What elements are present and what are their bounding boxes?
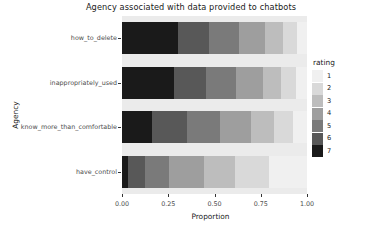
x-axis-tick-mark <box>168 194 169 197</box>
x-axis-tick-label: 0.50 <box>207 200 221 208</box>
legend-item[interactable]: 6 <box>312 133 335 146</box>
x-axis-tick-mark <box>122 194 123 197</box>
bar-segment <box>269 156 307 188</box>
x-axis-tick-label: 0.75 <box>254 200 268 208</box>
legend-items: 1234567 <box>312 70 335 158</box>
bar-segment <box>169 156 204 188</box>
bar-segment <box>122 22 178 54</box>
bar-segment <box>204 156 235 188</box>
legend-swatch <box>312 108 323 120</box>
chart-title: Agency associated with data provided to … <box>0 2 382 12</box>
legend-swatch <box>312 120 323 132</box>
legend-swatch <box>312 133 323 145</box>
legend-label: 3 <box>327 98 331 105</box>
bar-segment <box>239 22 265 54</box>
legend-label: 5 <box>327 123 331 130</box>
x-axis-title: Proportion <box>118 212 303 221</box>
bar-segment <box>145 156 169 188</box>
legend-label: 4 <box>327 110 331 117</box>
legend-item[interactable]: 2 <box>312 83 335 96</box>
y-axis-tick-label: have_control <box>76 168 117 176</box>
legend-label: 1 <box>327 73 331 80</box>
bar-segment <box>293 111 307 143</box>
legend-label: 7 <box>327 148 331 155</box>
bar-segment <box>152 111 187 143</box>
legend: rating 1234567 <box>312 58 335 158</box>
legend-item[interactable]: 1 <box>312 70 335 83</box>
bar-segment <box>220 111 251 143</box>
bar-segment <box>206 67 236 99</box>
x-axis-tick-label: 0.00 <box>115 200 129 208</box>
y-axis-tick-label: inappropriately_used <box>50 79 117 87</box>
y-axis-tick-label: how_to_delete <box>71 34 117 42</box>
bar-segment <box>281 67 296 99</box>
y-axis-tick-mark <box>118 172 121 173</box>
bar-row <box>122 22 307 54</box>
bar-row <box>122 111 307 143</box>
bar-segment <box>283 22 297 54</box>
stacked-bar-chart: Agency associated with data provided to … <box>0 0 382 229</box>
bar-segment <box>235 156 269 188</box>
bar-segment <box>263 67 282 99</box>
bar-segment <box>209 22 240 54</box>
plot-panel <box>122 16 307 194</box>
bar-segment <box>274 111 293 143</box>
legend-swatch <box>312 145 323 157</box>
legend-item[interactable]: 3 <box>312 95 335 108</box>
y-axis-tick-mark <box>118 38 121 39</box>
bar-segment <box>178 22 209 54</box>
bar-segment <box>122 67 174 99</box>
x-axis-tick-label: 1.00 <box>300 200 314 208</box>
x-axis-tick-mark <box>215 194 216 197</box>
legend-swatch <box>312 95 323 107</box>
legend-title: rating <box>313 58 335 67</box>
y-axis-tick-label: know_more_than_comfortable <box>21 123 117 131</box>
legend-label: 2 <box>327 85 331 92</box>
x-axis-tick-label: 0.25 <box>161 200 175 208</box>
legend-swatch <box>312 83 323 95</box>
bar-segment <box>128 156 146 188</box>
bar-segment <box>187 111 220 143</box>
y-axis-tick-mark <box>118 83 121 84</box>
legend-item[interactable]: 5 <box>312 120 335 133</box>
bar-segment <box>122 111 152 143</box>
x-axis-tick-mark <box>261 194 262 197</box>
bar-row <box>122 67 307 99</box>
bar-segment <box>297 22 307 54</box>
x-axis-tick-mark <box>307 194 308 197</box>
bar-segment <box>265 22 283 54</box>
legend-item[interactable]: 7 <box>312 145 335 158</box>
y-axis-tick-labels: how_to_deleteinappropriately_usedknow_mo… <box>0 16 117 194</box>
bar-segment <box>174 67 206 99</box>
legend-swatch <box>312 70 323 82</box>
bar-segment <box>251 111 274 143</box>
bar-row <box>122 156 307 188</box>
legend-label: 6 <box>327 135 331 142</box>
legend-item[interactable]: 4 <box>312 108 335 121</box>
bar-segment <box>236 67 263 99</box>
y-axis-tick-mark <box>118 127 121 128</box>
bar-segment <box>296 67 307 99</box>
